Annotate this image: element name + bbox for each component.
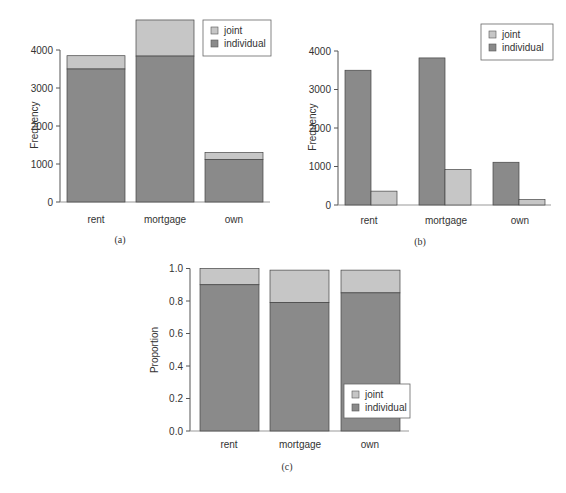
x-tick-label: rent [360, 215, 377, 226]
y-axis-title: Frequency [29, 101, 40, 148]
bar-joint-own [519, 200, 545, 205]
y-tick-label: 0 [47, 197, 53, 208]
y-tick-label: 0 [325, 200, 331, 211]
legend: jointindividual [481, 24, 553, 60]
y-tick-label: 4000 [31, 45, 54, 56]
chart-panel-b: 01000200030004000Frequencyrentmortgageow… [307, 24, 553, 248]
y-tick-label: 3000 [309, 84, 332, 95]
legend-swatch-individual [352, 404, 359, 411]
bar-joint-mortgage [270, 270, 329, 303]
x-tick-label: rent [87, 214, 104, 225]
x-tick-label: own [361, 439, 379, 450]
legend: jointindividual [203, 20, 271, 56]
bar-joint-mortgage [136, 20, 194, 56]
legend-label-individual: individual [224, 38, 266, 49]
legend-swatch-individual [489, 44, 496, 51]
chart-panel-a: 01000200030004000Frequencyrentmortgageow… [29, 20, 271, 246]
y-tick-label: 1000 [31, 159, 54, 170]
x-tick-label: mortgage [425, 215, 468, 226]
bar-individual-mortgage [419, 58, 445, 205]
legend-label-individual: individual [502, 42, 544, 53]
bar-individual-mortgage [270, 303, 329, 431]
bar-individual-own [205, 159, 263, 202]
y-tick-label: 0.8 [169, 296, 183, 307]
x-tick-label: rent [220, 439, 237, 450]
y-tick-label: 0.4 [169, 361, 183, 372]
y-tick-label: 3000 [31, 83, 54, 94]
caption-c: (c) [281, 461, 292, 473]
y-tick-label: 0.6 [169, 328, 183, 339]
x-tick-label: own [225, 214, 243, 225]
x-tick-label: own [511, 215, 529, 226]
bar-individual-rent [67, 69, 125, 202]
y-tick-label: 1.0 [169, 263, 183, 274]
bar-joint-own [205, 153, 263, 160]
legend-swatch-individual [211, 40, 218, 47]
figure: 01000200030004000Frequencyrentmortgageow… [0, 0, 566, 493]
legend-label-joint: joint [364, 389, 384, 400]
y-tick-label: 0.2 [169, 393, 183, 404]
y-tick-label: 4000 [309, 46, 332, 57]
bar-joint-mortgage [445, 170, 471, 205]
legend: jointindividual [344, 384, 410, 418]
chart-panel-c: 0.00.20.40.60.81.0Proportionrentmortgage… [149, 263, 410, 473]
bar-individual-rent [200, 285, 259, 431]
y-tick-label: 0.0 [169, 426, 183, 437]
bar-individual-rent [345, 70, 371, 205]
legend-swatch-joint [211, 27, 218, 34]
bar-individual-own [493, 162, 519, 205]
legend-label-joint: joint [223, 25, 243, 36]
y-axis-title: Proportion [149, 327, 160, 373]
bar-joint-rent [371, 191, 397, 205]
legend-label-individual: individual [365, 402, 407, 413]
legend-label-joint: joint [501, 29, 521, 40]
y-tick-label: 1000 [309, 161, 332, 172]
bar-joint-rent [67, 56, 125, 69]
y-axis-title: Frequency [307, 103, 318, 150]
bar-joint-rent [200, 269, 259, 285]
legend-swatch-joint [489, 31, 496, 38]
caption-b: (b) [414, 236, 426, 248]
bar-joint-own [341, 270, 400, 293]
caption-a: (a) [114, 234, 125, 246]
x-tick-label: mortgage [279, 439, 322, 450]
bar-individual-mortgage [136, 56, 194, 202]
x-tick-label: mortgage [144, 214, 187, 225]
legend-swatch-joint [352, 391, 359, 398]
